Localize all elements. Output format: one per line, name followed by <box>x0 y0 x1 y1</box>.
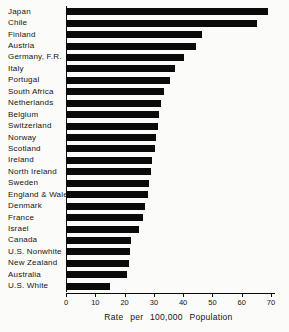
chart-row: Portugal <box>0 75 289 86</box>
bar <box>67 100 161 107</box>
bar-track <box>66 29 279 40</box>
chart-row: U.S. White <box>0 281 289 292</box>
bar-track <box>66 235 279 246</box>
chart-row: France <box>0 212 289 223</box>
chart-row: Denmark <box>0 200 289 211</box>
chart-row: Japan <box>0 6 289 17</box>
category-label: South Africa <box>0 88 66 96</box>
bar <box>67 8 268 15</box>
bar-track <box>66 166 279 177</box>
category-label: Portugal <box>0 76 66 84</box>
bar <box>67 237 131 244</box>
bar-track <box>66 281 279 292</box>
category-label: Norway <box>0 134 66 142</box>
chart-row: Scotland <box>0 143 289 154</box>
bar <box>67 43 196 50</box>
bar-track <box>66 132 279 143</box>
bar-track <box>66 155 279 166</box>
bar <box>67 180 149 187</box>
category-label: Belgium <box>0 111 66 119</box>
bar-track <box>66 86 279 97</box>
category-label: Chile <box>0 19 66 27</box>
bar-track <box>66 258 279 269</box>
chart-row: Australia <box>0 269 289 280</box>
chart-row: Netherlands <box>0 98 289 109</box>
bar <box>67 88 164 95</box>
bar-track <box>66 269 279 280</box>
chart-row: Belgium <box>0 109 289 120</box>
x-axis-tick <box>154 294 155 297</box>
chart-row: Switzerland <box>0 120 289 131</box>
chart-row: Canada <box>0 235 289 246</box>
x-axis-tick-label: 30 <box>150 299 158 307</box>
bar <box>67 283 110 290</box>
category-label: Italy <box>0 65 66 73</box>
bar <box>67 54 184 61</box>
chart-row: England & Wales <box>0 189 289 200</box>
bar <box>67 77 170 84</box>
chart-row: North Ireland <box>0 166 289 177</box>
category-label: Ireland <box>0 156 66 164</box>
bar <box>67 248 130 255</box>
bar <box>67 31 202 38</box>
x-axis-tick <box>66 294 67 297</box>
category-label: Switzerland <box>0 122 66 130</box>
bar <box>67 145 155 152</box>
chart-row: Norway <box>0 132 289 143</box>
x-axis-tick-label: 70 <box>267 299 275 307</box>
chart-row: Israel <box>0 223 289 234</box>
bar-track <box>66 143 279 154</box>
x-axis-tick <box>125 294 126 297</box>
x-axis-tick-label: 60 <box>238 299 246 307</box>
category-label: Japan <box>0 8 66 16</box>
bar <box>67 134 156 141</box>
bar <box>67 214 143 221</box>
category-label: Netherlands <box>0 99 66 107</box>
chart-row: New Zealand <box>0 258 289 269</box>
x-axis-tick-label: 20 <box>120 299 128 307</box>
category-label: Finland <box>0 31 66 39</box>
bar <box>67 157 152 164</box>
bar-track <box>66 246 279 257</box>
bar <box>67 203 145 210</box>
category-label: Canada <box>0 236 66 244</box>
chart-row: Finland <box>0 29 289 40</box>
bar-track <box>66 98 279 109</box>
chart-row: South Africa <box>0 86 289 97</box>
x-axis-tick-label: 50 <box>208 299 216 307</box>
bar <box>67 123 158 130</box>
bar-track <box>66 63 279 74</box>
category-label: England & Wales <box>0 191 66 199</box>
bar <box>67 191 148 198</box>
category-label: Israel <box>0 225 66 233</box>
category-label: New Zealand <box>0 259 66 267</box>
bar-track <box>66 109 279 120</box>
category-label: Denmark <box>0 202 66 210</box>
chart-row: Austria <box>0 40 289 51</box>
category-label: North Ireland <box>0 168 66 176</box>
category-label: Austria <box>0 42 66 50</box>
category-label: U.S. White <box>0 282 66 290</box>
chart-rows: JapanChileFinlandAustriaGermany, F.R.Ita… <box>0 6 289 292</box>
bar-track <box>66 189 279 200</box>
bar <box>67 20 257 27</box>
x-axis-tick <box>242 294 243 297</box>
bar <box>67 226 139 233</box>
bar-track <box>66 223 279 234</box>
bar <box>67 168 151 175</box>
category-label: Sweden <box>0 179 66 187</box>
chart-row: Italy <box>0 63 289 74</box>
bar <box>67 260 129 267</box>
category-label: France <box>0 214 66 222</box>
bar-track <box>66 52 279 63</box>
x-axis-tick-label: 40 <box>179 299 187 307</box>
category-label: U.S. Nonwhite <box>0 248 66 256</box>
chart-row: Chile <box>0 17 289 28</box>
category-label: Scotland <box>0 145 66 153</box>
bar <box>67 65 175 72</box>
bar-chart-figure: JapanChileFinlandAustriaGermany, F.R.Ita… <box>0 0 289 332</box>
bar-track <box>66 17 279 28</box>
chart-row: Germany, F.R. <box>0 52 289 63</box>
x-axis: 010203040506070 <box>66 293 275 294</box>
bar-track <box>66 212 279 223</box>
